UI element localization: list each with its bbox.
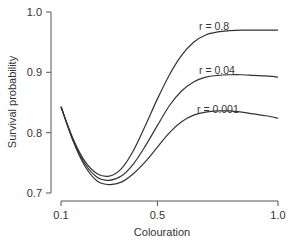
plot-area [61, 30, 278, 185]
survival-chart: 1.0 0.9 0.8 0.7 Survival probability 0.1… [0, 0, 295, 246]
y-tick-label: 0.7 [27, 187, 42, 199]
series-label-r-0.04: r = 0.04 [199, 64, 235, 76]
x-axis-title: Colouration [134, 226, 190, 238]
x-axis: 0.1 0.5 1.0 Colouration [53, 201, 285, 238]
y-axis: 1.0 0.9 0.8 0.7 Survival probability [6, 6, 51, 199]
series-line-0 [61, 30, 278, 176]
y-tick-label: 0.8 [27, 127, 42, 139]
x-tick-label: 0.5 [150, 209, 165, 221]
y-tick-label: 0.9 [27, 66, 42, 78]
y-tick-label: 1.0 [27, 6, 42, 18]
series-line-2 [61, 107, 278, 185]
series-label-r-0.8: r = 0.8 [199, 20, 229, 32]
x-tick-label: 1.0 [270, 209, 285, 221]
y-axis-title: Survival probability [6, 55, 18, 148]
x-tick-label: 0.1 [53, 209, 68, 221]
series-line-1 [61, 75, 278, 181]
series-label-r-0.001: r = 0.001 [197, 103, 239, 115]
